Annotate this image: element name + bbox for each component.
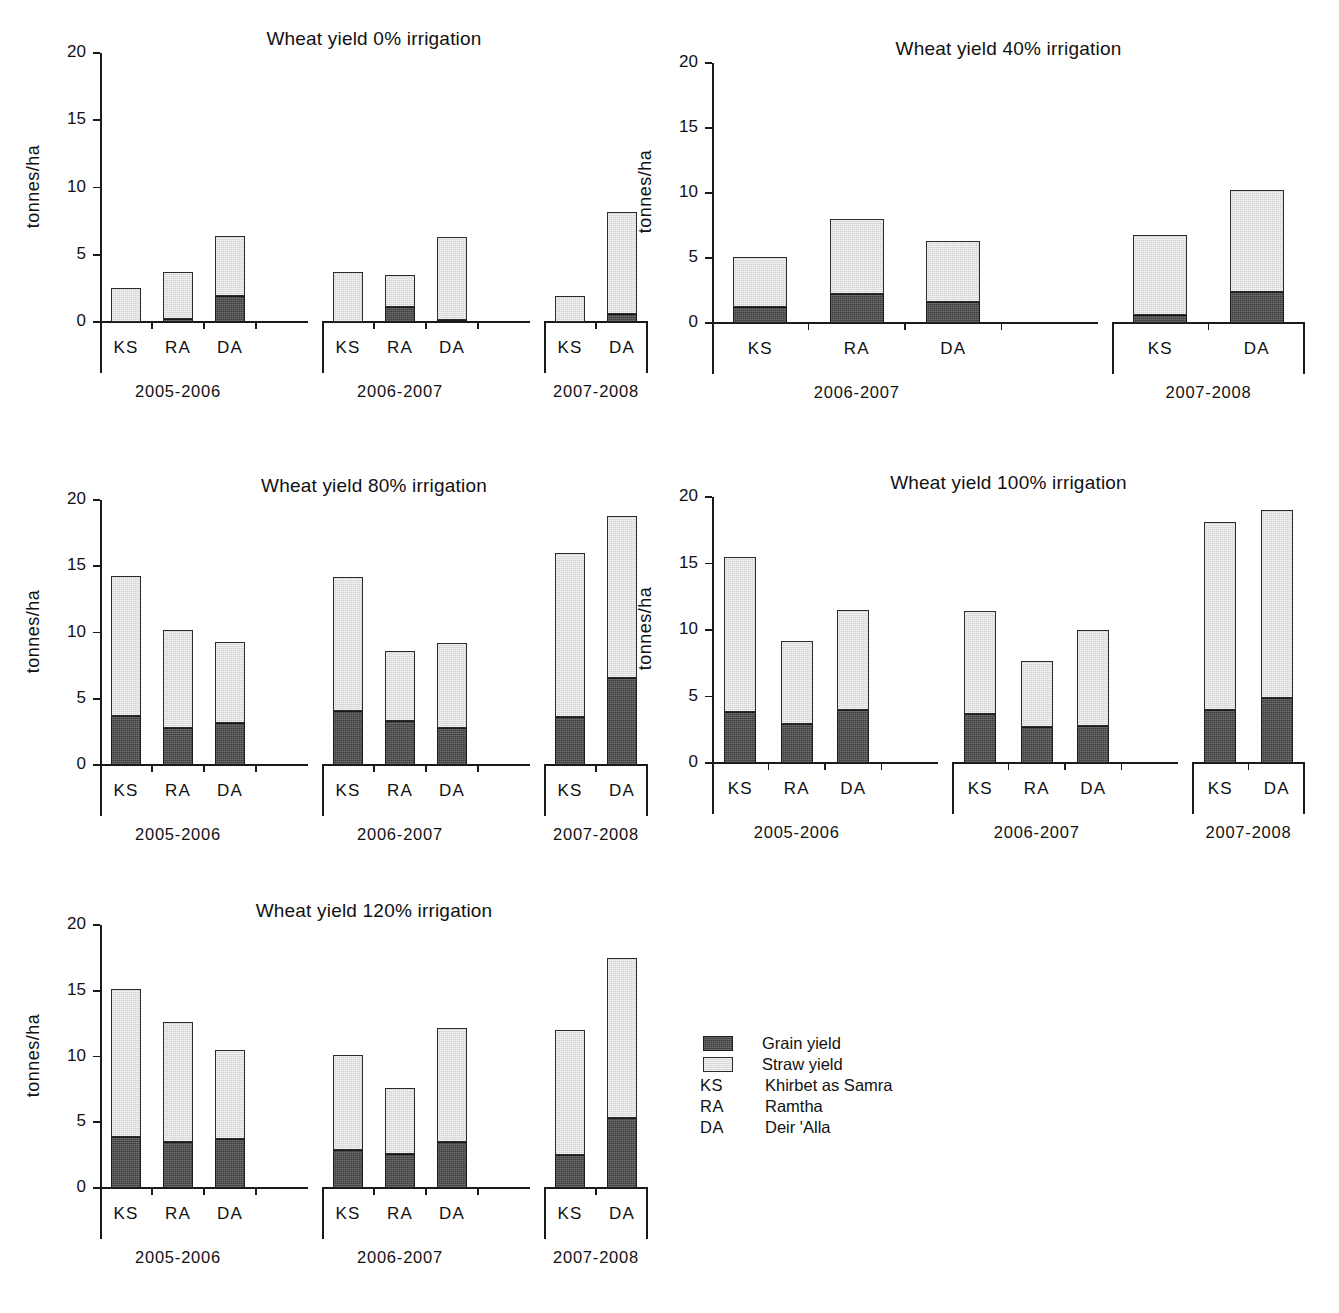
legend-site-code: KS <box>700 1076 733 1095</box>
site-label-da: DA <box>196 1204 264 1224</box>
straw-yield-segment <box>555 1030 584 1155</box>
straw-yield-segment <box>607 958 636 1118</box>
y-tick <box>93 990 100 992</box>
straw-yield-segment <box>163 1022 192 1142</box>
legend-label: Khirbet as Samra <box>765 1076 892 1095</box>
legend-label: Straw yield <box>762 1055 843 1074</box>
x-tick <box>203 1189 205 1195</box>
season-label: 2006-2007 <box>292 1248 508 1267</box>
grain-yield-segment <box>555 1155 584 1188</box>
y-tick <box>93 1121 100 1123</box>
grain-yield-segment <box>385 1154 414 1188</box>
x-tick <box>255 1189 257 1195</box>
grain-yield-segment <box>333 1150 362 1188</box>
legend-item: DADeir 'Alla <box>700 1117 1040 1138</box>
grain-yield-segment <box>437 1142 466 1188</box>
legend-label: Deir 'Alla <box>765 1118 831 1137</box>
straw-yield-swatch <box>703 1057 733 1072</box>
site-label-da: DA <box>588 1204 656 1224</box>
y-tick-label: 5 <box>42 1111 86 1131</box>
stacked-bar <box>437 1028 466 1188</box>
y-tick <box>93 1056 100 1058</box>
season-label: 2007-2008 <box>514 1248 678 1267</box>
y-axis-label: tonnes/ha <box>23 1000 44 1110</box>
straw-yield-segment <box>437 1028 466 1142</box>
chart-panel-irrigation-120: Wheat yield 120% irrigationtonnes/ha0510… <box>0 0 1339 1313</box>
y-tick <box>93 1187 100 1189</box>
stacked-bar <box>163 1022 192 1188</box>
legend-item: Grain yield <box>700 1033 1040 1054</box>
grain-yield-segment <box>111 1137 140 1188</box>
x-tick <box>373 1189 375 1195</box>
legend-site-code: DA <box>700 1118 733 1137</box>
stacked-bar <box>111 989 140 1188</box>
straw-yield-segment <box>111 989 140 1136</box>
y-tick-label: 0 <box>42 1177 86 1197</box>
legend-item: Straw yield <box>700 1054 1040 1075</box>
season-label: 2005-2006 <box>70 1248 286 1267</box>
site-label-da: DA <box>418 1204 486 1224</box>
legend-item: RARamtha <box>700 1096 1040 1117</box>
stacked-bar <box>333 1055 362 1188</box>
grain-yield-swatch <box>703 1036 733 1051</box>
straw-yield-segment <box>385 1088 414 1154</box>
stacked-bar <box>385 1088 414 1188</box>
y-tick-label: 10 <box>42 1046 86 1066</box>
stacked-bar <box>215 1050 244 1188</box>
chart-legend: Grain yieldStraw yieldKSKhirbet as Samra… <box>700 1033 1040 1138</box>
wheat-yield-figure: Wheat yield 0% irrigationtonnes/ha051015… <box>0 0 1339 1313</box>
legend-label: Grain yield <box>762 1034 841 1053</box>
stacked-bar <box>555 1030 584 1188</box>
x-tick <box>595 1189 597 1195</box>
y-axis-line <box>100 925 102 1190</box>
y-tick-label: 20 <box>42 914 86 934</box>
chart-title: Wheat yield 120% irrigation <box>70 900 678 922</box>
y-tick <box>93 924 100 926</box>
grain-yield-segment <box>163 1142 192 1188</box>
straw-yield-segment <box>215 1050 244 1139</box>
y-tick-label: 15 <box>42 980 86 1000</box>
grain-yield-segment <box>607 1118 636 1188</box>
grain-yield-segment <box>215 1139 244 1188</box>
straw-yield-segment <box>333 1055 362 1150</box>
stacked-bar <box>607 958 636 1188</box>
x-tick <box>477 1189 479 1195</box>
x-tick <box>425 1189 427 1195</box>
x-tick <box>151 1189 153 1195</box>
legend-label: Ramtha <box>765 1097 823 1116</box>
legend-item: KSKhirbet as Samra <box>700 1075 1040 1096</box>
legend-site-code: RA <box>700 1097 733 1116</box>
